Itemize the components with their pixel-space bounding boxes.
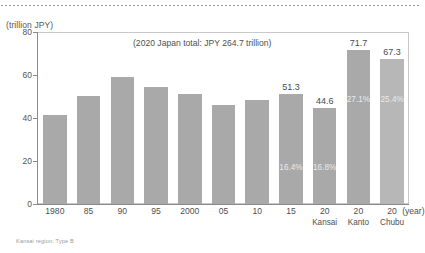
x-axis-label-region: Kanto [342,218,376,227]
bar-item [212,32,236,204]
bar [144,87,168,204]
bar-item: 51.316.4% [279,32,303,204]
bar [178,94,202,204]
bar [43,115,67,204]
x-axis-label: 05 [207,206,241,216]
bar-item: 44.616.8% [313,32,337,204]
x-axis-label: 15 [274,206,308,216]
x-axis-label: 20Kansai [308,206,342,227]
x-axis-label-year: 85 [84,206,94,216]
x-axis-label-year: 1980 [45,206,64,216]
x-axis-label: 2000 [173,206,207,216]
bar [111,77,135,204]
x-axis-label: 90 [105,206,139,216]
x-axis-label: 85 [72,206,106,216]
bar-item: 71.727.1% [347,32,371,204]
x-axis-label: 1980 [38,206,72,216]
bar-value-label: 51.3 [282,82,300,92]
x-axis-labels: 1980859095200005101520Kansai20Kanto20Chu… [38,206,409,240]
y-axis-tick-mark [33,161,37,162]
bar: 67.325.4% [380,59,404,204]
x-axis-unit-label: (year) [402,206,424,216]
bar-item [178,32,202,204]
bar-value-label: 44.6 [316,96,334,106]
x-axis-label-year: 15 [286,206,296,216]
x-axis-label-year: 90 [118,206,128,216]
bar-share-label: 16.8% [313,163,336,172]
y-axis-tick-mark [33,118,37,119]
y-axis-tick-mark [33,32,37,33]
bar-value-label: 67.3 [383,47,401,57]
bar-item [245,32,269,204]
y-axis-tick: 20 [0,161,37,171]
bar: 51.316.4% [279,94,303,204]
bar-share-label: 16.4% [279,163,302,172]
bar-value-label: 71.7 [350,38,368,48]
bar: 71.727.1% [347,50,371,204]
y-axis-tick: 0 [0,204,37,214]
x-axis-label-year: 2000 [180,206,199,216]
bar-item [111,32,135,204]
x-axis-label-year: 20 [320,206,330,216]
y-axis-tick-mark [33,75,37,76]
bar-share-label: 25.4% [381,95,404,104]
x-axis-line [37,204,409,205]
x-axis-label-year: 10 [252,206,262,216]
y-axis-tick: 40 [0,118,37,128]
x-axis-label: 10 [240,206,274,216]
x-axis-label: 95 [139,206,173,216]
bar-item [77,32,101,204]
bar [77,96,101,204]
x-axis-label-year: 20 [354,206,364,216]
y-axis-tick: 60 [0,75,37,85]
bar-series: 51.316.4%44.616.8%71.727.1%67.325.4% [38,32,409,204]
bar-item: 67.325.4% [380,32,404,204]
bar [245,100,269,204]
y-axis-tick: 80 [0,32,37,42]
bar-item [43,32,67,204]
x-axis-label-year: 05 [219,206,229,216]
x-axis-label-year: 20 [387,206,397,216]
x-axis-label-region: Chubu [375,218,409,227]
y-axis-tick-mark [33,204,37,205]
x-axis-label: 20Kanto [342,206,376,227]
x-axis-label-region: Kansai [308,218,342,227]
bar-share-label: 27.1% [347,95,370,104]
dotted-divider [0,4,420,7]
x-axis-label-year: 95 [151,206,161,216]
bar [212,105,236,204]
bar-item [144,32,168,204]
bar: 44.616.8% [313,108,337,204]
figure-caption: Kansai region: Type B [16,238,74,244]
